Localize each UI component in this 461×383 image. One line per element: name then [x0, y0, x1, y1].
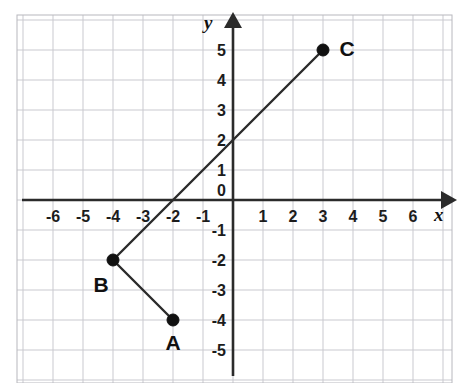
- x-tick-label: -1: [196, 208, 210, 225]
- data-point-c: [317, 44, 329, 56]
- x-tick-label: -2: [166, 208, 180, 225]
- x-tick-label: -3: [136, 208, 150, 225]
- coordinate-plane-figure: -6-5-4-3-2-112345654321-1-2-3-4-50 ABC y…: [0, 0, 461, 383]
- y-tick-label: -1: [212, 222, 226, 239]
- y-axis-label: y: [202, 12, 213, 33]
- y-tick-label: -4: [212, 312, 226, 329]
- y-tick-label: 5: [217, 42, 226, 59]
- data-point-a: [167, 314, 179, 326]
- y-tick-label: 2: [217, 132, 226, 149]
- x-tick-label: 2: [289, 208, 298, 225]
- point-label-b: B: [93, 273, 108, 296]
- y-tick-label: -3: [212, 282, 226, 299]
- y-tick-label: 4: [217, 72, 226, 89]
- y-tick-label: 3: [217, 102, 226, 119]
- origin-label: 0: [217, 182, 226, 199]
- x-tick-label: 1: [259, 208, 268, 225]
- point-label-c: C: [339, 37, 354, 60]
- y-tick-label: -2: [212, 252, 226, 269]
- x-tick-label: -5: [76, 208, 90, 225]
- x-tick-label: 3: [319, 208, 328, 225]
- data-point-b: [107, 254, 119, 266]
- axes-layer: [22, 12, 457, 376]
- x-tick-label: 6: [409, 208, 418, 225]
- x-tick-label: -6: [46, 208, 60, 225]
- point-label-a: A: [165, 331, 180, 354]
- y-tick-label: -5: [212, 342, 226, 359]
- coordinate-plane-canvas: -6-5-4-3-2-112345654321-1-2-3-4-50 ABC y…: [0, 0, 461, 383]
- y-tick-label: 1: [217, 162, 226, 179]
- x-tick-label: -4: [106, 208, 120, 225]
- x-axis-label: x: [433, 204, 444, 225]
- x-tick-label: 4: [349, 208, 358, 225]
- x-tick-label: 5: [379, 208, 388, 225]
